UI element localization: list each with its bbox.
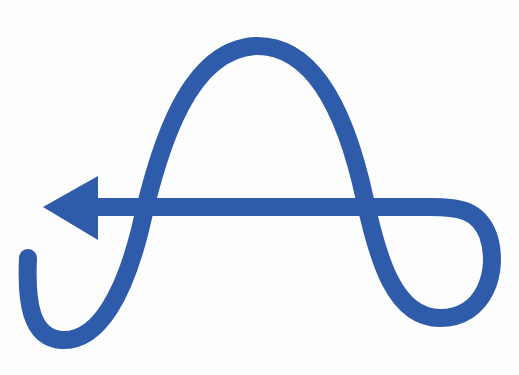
arrowhead-icon [43,176,98,240]
symbol-canvas: Blue continuous line forming an A-shaped… [0,0,519,375]
looping-arrow-icon [0,0,519,375]
